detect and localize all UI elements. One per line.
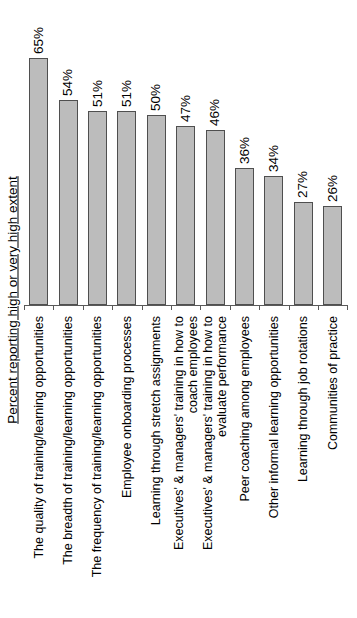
category-label: Learning through stretch assignments xyxy=(149,316,163,525)
bar xyxy=(206,130,225,305)
category-label: Peer coaching among employees xyxy=(238,316,252,502)
axis-tick xyxy=(112,305,113,310)
bar-value-label: 26% xyxy=(326,175,340,202)
bar-value-label: 27% xyxy=(296,171,310,198)
bar-value-label: 36% xyxy=(238,137,252,164)
bar xyxy=(147,115,166,305)
axis-tick xyxy=(83,305,84,310)
category-label: Learning through job rotations xyxy=(296,316,310,482)
bar-value-label: 50% xyxy=(149,84,163,111)
axis-tick xyxy=(142,305,143,310)
axis-tick xyxy=(230,305,231,310)
category-label: Other informal learning opportunities xyxy=(267,316,281,518)
bar xyxy=(176,126,195,305)
plot-area: 65%The quality of training/learning oppo… xyxy=(0,0,357,618)
axis-tick xyxy=(318,305,319,310)
axis-tick xyxy=(289,305,290,310)
bar xyxy=(59,100,78,305)
bar-value-label: 47% xyxy=(179,95,193,122)
axis-tick xyxy=(200,305,201,310)
axis-tick xyxy=(53,305,54,310)
bar xyxy=(294,202,313,305)
bar-value-label: 51% xyxy=(120,80,134,107)
bar xyxy=(264,176,283,305)
bar-value-label: 54% xyxy=(61,69,75,96)
bar-value-label: 34% xyxy=(267,145,281,172)
category-label: Executives' & managers' training in how … xyxy=(172,316,200,550)
axis-tick xyxy=(171,305,172,310)
bar xyxy=(88,111,107,305)
bar xyxy=(117,111,136,305)
bar-value-label: 65% xyxy=(32,27,46,54)
category-label: Executives' & managers' training in how … xyxy=(201,316,229,550)
bar xyxy=(29,58,48,305)
category-label: The quality of training/learning opportu… xyxy=(32,316,46,559)
x-axis-line xyxy=(24,305,348,306)
bar-value-label: 51% xyxy=(91,80,105,107)
axis-tick xyxy=(259,305,260,310)
category-label: Employee onboarding processes xyxy=(120,316,134,498)
bar xyxy=(235,168,254,305)
bar-value-label: 46% xyxy=(208,99,222,126)
category-label: The breadth of training/learning opportu… xyxy=(61,316,75,565)
bar xyxy=(323,206,342,305)
axis-tick xyxy=(24,305,25,310)
bar-chart: Percent reporting high or very high exte… xyxy=(0,0,357,618)
axis-tick xyxy=(347,305,348,310)
category-label: The frequency of training/learning oppor… xyxy=(91,316,105,577)
category-label: Communities of practice xyxy=(326,316,340,450)
